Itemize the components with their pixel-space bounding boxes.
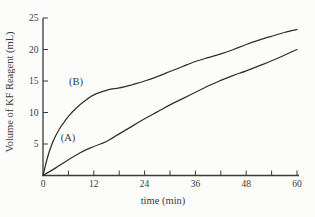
y-tick-label: 20	[29, 45, 39, 55]
y-tick-label: 25	[29, 13, 39, 23]
x-tick-label: 36	[191, 179, 201, 189]
series-labels: (A)(B)	[61, 76, 84, 145]
y-tick-label: 5	[34, 139, 39, 149]
x-tick-label: 48	[241, 179, 251, 189]
y-tick-label: 10	[29, 108, 39, 118]
kf-reagent-titration-chart: 01224364860510152025 (A)(B) time (min) V…	[0, 0, 315, 217]
x-tick-label: 12	[89, 179, 99, 189]
chart-canvas: 01224364860510152025 (A)(B) time (min) V…	[0, 0, 315, 217]
x-tick-label: 24	[140, 179, 150, 189]
curve-a	[43, 50, 297, 176]
data-curves	[43, 29, 297, 175]
x-tick-label: 60	[292, 179, 302, 189]
y-axis-title: Volume of KF Reagent (mL)	[4, 31, 16, 153]
x-tick-label: 0	[41, 179, 46, 189]
series-label-a: (A)	[61, 132, 76, 144]
series-label-b: (B)	[69, 76, 84, 88]
curve-b	[43, 29, 297, 175]
x-axis-title: time (min)	[141, 195, 186, 207]
page: { "chart_data": { "type": "line", "title…	[0, 0, 315, 217]
y-tick-label: 15	[29, 76, 39, 86]
